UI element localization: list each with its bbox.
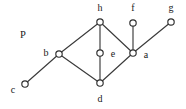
node-label-a: a (144, 50, 149, 60)
node-f[interactable] (130, 20, 136, 26)
node-g[interactable] (168, 19, 174, 25)
edge-b-d (59, 54, 100, 83)
node-a[interactable] (130, 50, 136, 56)
node-label-b: b (43, 48, 48, 58)
node-label-e: e (111, 49, 116, 59)
node-d[interactable] (97, 80, 103, 86)
poset-diagram-figure: P hfgbeacd (0, 0, 186, 109)
node-label-c: c (11, 85, 16, 95)
node-label-f: f (131, 3, 135, 13)
edge-h-a (100, 22, 133, 53)
edge-h-b (59, 22, 100, 54)
node-h[interactable] (97, 19, 103, 25)
node-label-g: g (168, 3, 173, 13)
poset-label: P (20, 30, 26, 40)
node-label-h: h (97, 3, 102, 13)
edge-b-c (25, 54, 59, 84)
node-b[interactable] (56, 51, 62, 57)
node-e[interactable] (97, 50, 103, 56)
edge-a-g (133, 22, 171, 53)
node-c[interactable] (22, 81, 28, 87)
node-label-d: d (97, 94, 102, 104)
graph-canvas (0, 0, 186, 109)
edge-a-d (100, 53, 133, 83)
